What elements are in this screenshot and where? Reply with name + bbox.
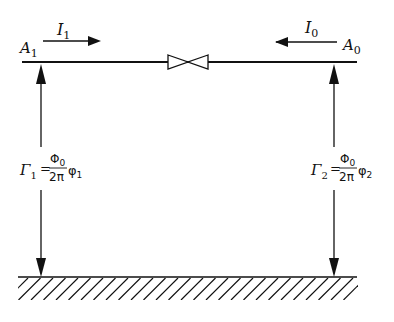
ground-icon: [6, 277, 366, 300]
svg-text:Φ0: Φ0: [340, 152, 355, 168]
svg-text:φ2: φ2: [358, 163, 372, 180]
current-arrow-i0: [275, 37, 337, 47]
svg-text:Γ1: Γ1: [19, 161, 37, 181]
svg-text:2π: 2π: [339, 170, 354, 184]
svg-text:φ1: φ1: [68, 163, 82, 180]
formula-gamma2: Γ2 = Φ0 2π φ2: [310, 152, 372, 184]
formula-gamma1: Γ1 = Φ0 2π φ1: [19, 152, 82, 184]
label-i1: I1: [56, 20, 70, 42]
label-a1: A1: [18, 39, 38, 60]
svg-text:Γ2: Γ2: [310, 161, 328, 181]
label-a0: A0: [341, 36, 361, 57]
junction-icon: [168, 55, 208, 69]
current-arrow-i1: [43, 36, 101, 46]
diagram-canvas: I1 I0 A1 A0 Γ1 = Φ0 2π φ1 Γ2 = Φ0 2π φ2: [0, 0, 394, 322]
label-i0: I0: [304, 18, 318, 40]
svg-text:2π: 2π: [49, 170, 64, 184]
svg-text:Φ0: Φ0: [50, 152, 65, 168]
